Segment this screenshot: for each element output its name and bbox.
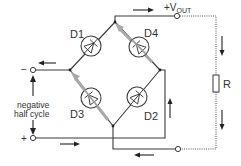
label-d3: D3 xyxy=(70,108,84,120)
current-arrow-bottom-return-head xyxy=(134,153,140,158)
node-right xyxy=(159,69,162,72)
current-arrow-output-top-head xyxy=(148,8,154,13)
annotation-arrow-up xyxy=(30,75,36,96)
current-arrow-bottom-return xyxy=(134,153,154,158)
annotation-arrow-down xyxy=(30,120,36,135)
current-arrow-load-upper xyxy=(220,36,225,56)
annotation-line-2: half cycle xyxy=(14,109,50,119)
node-bottom xyxy=(112,125,115,128)
diode-d2 xyxy=(123,83,151,111)
current-arrow-bottom-plus xyxy=(60,142,80,147)
bridge-rectifier-diagram: D1 D4 D3 D2 +VOUT R − + negative half cy… xyxy=(0,0,241,166)
label-resistor: R xyxy=(223,78,231,90)
annotation-arrow-down-head xyxy=(30,128,36,135)
current-arrow-load-lower-head xyxy=(220,124,225,130)
wire-input-plus xyxy=(36,70,165,138)
output-label-main: +V xyxy=(164,2,177,13)
input-sign-minus: − xyxy=(21,64,27,75)
flow-arrowhead-d3 xyxy=(71,72,80,81)
input-sign-plus: + xyxy=(21,133,27,144)
load-wire-bottom xyxy=(181,92,216,149)
label-d2: D2 xyxy=(144,110,158,122)
annotation-arrow-up-head xyxy=(30,75,36,82)
current-arrow-bottom-plus-head xyxy=(74,142,80,147)
current-arrow-load-lower xyxy=(220,110,225,130)
load-wire-top xyxy=(180,16,216,75)
current-arrow-right-vertical-head xyxy=(168,98,173,104)
node-left xyxy=(69,69,72,72)
current-arrow-output-top xyxy=(133,8,154,13)
current-arrow-input-minus-head xyxy=(38,61,44,66)
current-arrow-right-vertical xyxy=(168,98,173,118)
output-label: +VOUT xyxy=(164,2,192,14)
wire-output-positive xyxy=(115,16,174,22)
input-terminal-minus[interactable] xyxy=(30,67,35,72)
label-d1: D1 xyxy=(70,28,84,40)
output-terminal-return[interactable] xyxy=(175,146,180,151)
output-terminal-positive[interactable] xyxy=(174,13,179,18)
label-d4: D4 xyxy=(144,27,158,39)
current-arrow-load-upper-head xyxy=(220,50,225,56)
node-top xyxy=(114,21,117,24)
current-arrow-input-minus xyxy=(38,61,56,66)
input-terminal-plus[interactable] xyxy=(30,135,35,140)
resistor-r xyxy=(213,75,219,92)
output-label-sub: OUT xyxy=(177,7,193,14)
